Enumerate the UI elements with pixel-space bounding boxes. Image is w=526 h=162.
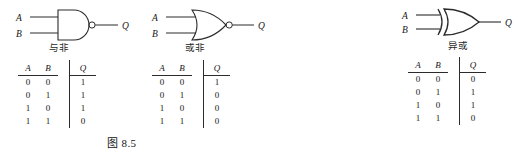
cell-q: 1 — [204, 76, 231, 90]
table-row: 1 1 0 — [18, 115, 96, 128]
nor-output-label: Q — [258, 21, 265, 31]
table-column-separator — [448, 112, 460, 125]
table-row: 1 0 0 — [152, 102, 230, 115]
table-row: 1 0 1 — [408, 99, 486, 112]
table-column-separator — [448, 86, 460, 99]
nand-gate-body — [58, 10, 89, 40]
caption-prefix: 图 — [107, 137, 118, 150]
table-row: 0 1 1 — [18, 89, 96, 102]
xor-gate-body — [444, 9, 479, 35]
table-header-row: A B Q — [152, 60, 230, 76]
nor-gate-body — [192, 10, 226, 40]
table-column-separator — [58, 115, 70, 128]
column-header-a: A — [408, 57, 428, 73]
cell-q: 0 — [204, 115, 231, 128]
table-row: 0 0 1 — [152, 76, 230, 90]
cell-a: 0 — [152, 76, 172, 90]
cell-a: 1 — [408, 112, 428, 125]
nand-inversion-bubble-icon — [89, 22, 95, 28]
table-header-row: A B Q — [408, 57, 486, 73]
table-row: 1 1 0 — [152, 115, 230, 128]
cell-a: 1 — [18, 115, 38, 128]
cell-q: 0 — [204, 89, 231, 102]
nand-input-b-label: B — [16, 29, 22, 39]
cell-q: 0 — [204, 102, 231, 115]
table-row: 0 1 1 — [408, 86, 486, 99]
cell-a: 0 — [18, 76, 38, 90]
cell-b: 0 — [172, 102, 192, 115]
column-header-q: Q — [204, 60, 231, 76]
xor-gate-diagram: A B Q 异或 — [400, 8, 520, 51]
nand-gate-label: 与非 — [16, 43, 102, 53]
nand-gate-symbol: A B Q — [14, 8, 134, 42]
column-header-a: A — [18, 60, 38, 76]
table-column-separator — [58, 102, 70, 115]
xor-input-b-label: B — [402, 25, 408, 35]
table-column-separator — [58, 60, 70, 76]
cell-b: 0 — [38, 102, 58, 115]
xor-input-a-label: A — [401, 11, 408, 21]
nor-gate-symbol: A B Q — [150, 8, 270, 42]
table-column-separator — [448, 73, 460, 87]
table-header-row: A B Q — [18, 60, 96, 76]
nand-gate-diagram: A B Q 与非 — [14, 8, 134, 53]
cell-b: 0 — [38, 76, 58, 90]
xor-gate-symbol: A B Q — [400, 8, 520, 38]
cell-a: 1 — [18, 102, 38, 115]
xor-output-label: Q — [505, 18, 512, 28]
table-column-separator — [448, 57, 460, 73]
cell-b: 1 — [428, 112, 448, 125]
caption-number: 8.5 — [122, 137, 137, 149]
cell-q: 1 — [70, 102, 97, 115]
nand-output-label: Q — [122, 21, 129, 31]
table-column-separator — [192, 115, 204, 128]
table-column-separator — [58, 89, 70, 102]
cell-b: 1 — [38, 89, 58, 102]
cell-a: 0 — [408, 86, 428, 99]
cell-a: 1 — [152, 115, 172, 128]
table-row: 0 0 0 — [408, 73, 486, 87]
cell-b: 0 — [428, 99, 448, 112]
figure-8-5: A B Q 与非 A B Q 0 0 1 0 1 1 — [0, 0, 300, 162]
table-column-separator — [192, 89, 204, 102]
nor-input-a-label: A — [151, 13, 158, 23]
nor-input-b-label: B — [152, 29, 158, 39]
cell-a: 0 — [18, 89, 38, 102]
column-header-q: Q — [460, 57, 487, 73]
nor-gate-diagram: A B Q 或非 — [150, 8, 270, 53]
cell-a: 1 — [152, 102, 172, 115]
cell-a: 0 — [408, 73, 428, 87]
cell-q: 0 — [70, 115, 97, 128]
cell-b: 1 — [428, 86, 448, 99]
table-row: 1 0 1 — [18, 102, 96, 115]
cell-q: 0 — [460, 112, 487, 125]
table-column-separator — [192, 102, 204, 115]
cell-b: 0 — [172, 76, 192, 90]
cell-q: 1 — [460, 86, 487, 99]
cell-q: 1 — [70, 76, 97, 90]
table-row: 0 1 0 — [152, 89, 230, 102]
xor-truth-table: A B Q 0 0 0 0 1 1 1 0 1 — [408, 57, 486, 125]
nor-truth-table: A B Q 0 0 1 0 1 0 1 0 0 — [152, 60, 230, 128]
cell-b: 1 — [172, 89, 192, 102]
table-column-separator — [192, 60, 204, 76]
figure-8-6: A B Q 异或 A B Q 0 0 0 0 1 1 — [382, 0, 526, 162]
table-column-separator — [58, 76, 70, 90]
figure-caption-8-5: 图 8.5 — [107, 134, 137, 150]
nor-gate-label: 或非 — [152, 43, 238, 53]
table-row: 0 0 1 — [18, 76, 96, 90]
nand-truth-table: A B Q 0 0 1 0 1 1 1 0 1 — [18, 60, 96, 128]
table-row: 1 1 0 — [408, 112, 486, 125]
xor-gate-label: 异或 — [408, 41, 508, 51]
table-column-separator — [448, 99, 460, 112]
cell-a: 0 — [152, 89, 172, 102]
column-header-a: A — [152, 60, 172, 76]
column-header-b: B — [428, 57, 448, 73]
cell-a: 1 — [408, 99, 428, 112]
cell-q: 1 — [70, 89, 97, 102]
cell-b: 0 — [428, 73, 448, 87]
column-header-b: B — [38, 60, 58, 76]
table-column-separator — [192, 76, 204, 90]
column-header-b: B — [172, 60, 192, 76]
xor-extra-arc — [438, 9, 442, 35]
